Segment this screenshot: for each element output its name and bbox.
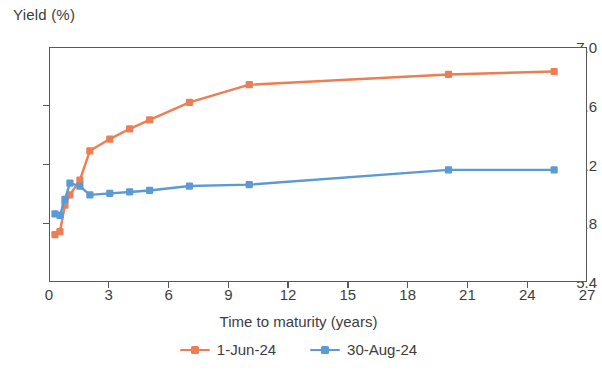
data-point-marker: [56, 228, 63, 235]
data-point-marker: [86, 147, 93, 154]
data-point-marker: [445, 166, 452, 173]
legend-label: 30-Aug-24: [347, 341, 417, 358]
data-point-marker: [146, 187, 153, 194]
data-point-marker: [186, 99, 193, 106]
x-tick-label: 3: [89, 286, 129, 303]
x-tick-label: 24: [507, 286, 547, 303]
data-point-marker: [551, 68, 558, 75]
plot-area: [49, 47, 587, 282]
x-tick-label: 21: [447, 286, 487, 303]
legend-label: 1-Jun-24: [217, 341, 276, 358]
data-point-marker: [126, 188, 133, 195]
data-point-marker: [146, 116, 153, 123]
legend-item[interactable]: 1-Jun-24: [180, 341, 276, 358]
legend-swatch-icon: [310, 344, 340, 356]
data-point-marker: [186, 182, 193, 189]
x-tick-label: 18: [388, 286, 428, 303]
series-30-Aug-24: [51, 166, 557, 219]
x-tick-label: 27: [567, 286, 602, 303]
x-tick-label: 15: [328, 286, 368, 303]
series-line: [55, 72, 554, 235]
series-1-Jun-24: [51, 68, 557, 238]
x-tick-label: 6: [149, 286, 189, 303]
legend-swatch-icon: [180, 344, 210, 356]
data-point-marker: [86, 191, 93, 198]
x-tick-label: 12: [268, 286, 308, 303]
data-point-marker: [126, 125, 133, 132]
x-tick-label: 0: [29, 286, 69, 303]
series-lines: [50, 48, 588, 283]
x-axis-title: Time to maturity (years): [0, 313, 597, 330]
data-point-marker: [66, 180, 73, 187]
x-tick-label: 9: [208, 286, 248, 303]
chart-legend: 1-Jun-2430-Aug-24: [0, 341, 597, 358]
data-point-marker: [551, 166, 558, 173]
data-point-marker: [56, 212, 63, 219]
data-point-marker: [76, 182, 83, 189]
data-point-marker: [106, 190, 113, 197]
data-point-marker: [445, 71, 452, 78]
legend-item[interactable]: 30-Aug-24: [310, 341, 417, 358]
data-point-marker: [61, 196, 68, 203]
y-axis-title: Yield (%): [13, 6, 75, 23]
data-point-marker: [246, 81, 253, 88]
data-point-marker: [246, 181, 253, 188]
data-point-marker: [106, 135, 113, 142]
